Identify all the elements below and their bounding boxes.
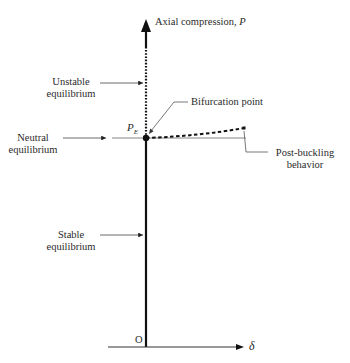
delta-axis-label: δ [249, 340, 255, 352]
post-buckling-leader [244, 131, 268, 152]
post-buckling-endpoint [243, 127, 246, 130]
stable-line-2: equilibrium [46, 241, 96, 253]
post-buckling-curve [146, 128, 244, 138]
stable-line-1: Stable [46, 229, 96, 241]
neutral-equilibrium-label: Neutral equilibrium [4, 132, 62, 156]
critical-load-label: PE [127, 121, 138, 138]
bifurcation-point-label: Bifurcation point [191, 96, 263, 108]
delta-axis-arrowhead-icon [236, 344, 244, 350]
bifurcation-point-dot [143, 135, 149, 141]
critical-load-symbol: P [127, 121, 134, 133]
unstable-equilibrium-label: Unstable equilibrium [46, 76, 96, 100]
p-axis-arrowhead-icon [141, 19, 151, 32]
origin-label: O [135, 334, 143, 346]
bifurcation-leader [151, 102, 188, 131]
post-buckling-line-1: Post-buckling [270, 147, 340, 159]
p-axis-label-text: Axial compression, [155, 16, 237, 27]
neutral-line-2: equilibrium [4, 144, 62, 156]
p-axis-symbol: P [239, 16, 245, 27]
stable-equilibrium-label: Stable equilibrium [46, 229, 96, 253]
bifurcation-leader-arrowhead-icon [149, 129, 154, 134]
neutral-line-1: Neutral [4, 132, 62, 144]
unstable-line-2: equilibrium [46, 88, 96, 100]
critical-load-subscript: E [134, 128, 138, 136]
post-buckling-line-2: behavior [270, 159, 340, 171]
diagram-canvas [0, 0, 350, 363]
unstable-line-1: Unstable [46, 76, 96, 88]
post-buckling-label: Post-buckling behavior [270, 147, 340, 171]
p-axis-label: Axial compression, P [155, 16, 246, 28]
